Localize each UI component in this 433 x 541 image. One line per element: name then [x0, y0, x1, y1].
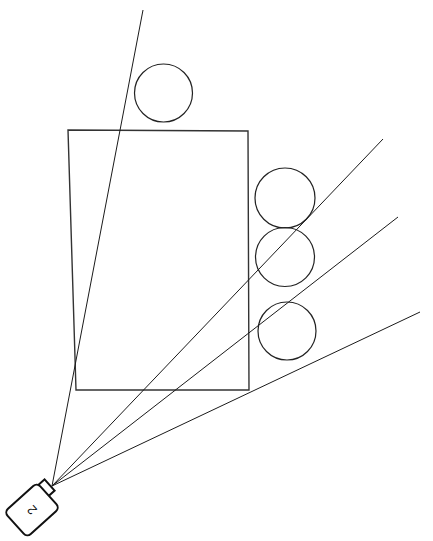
sensor-ray-1: [52, 10, 143, 486]
scene-svg: 2: [0, 0, 433, 541]
sensor-rays-group: [52, 10, 420, 486]
obstacle-circles-group: [135, 64, 317, 360]
obstacle-circle-right-2: [256, 228, 315, 287]
obstacle-circle-right-3: [258, 302, 316, 360]
sensor-ray-2: [52, 139, 383, 486]
sensor-ray-3: [52, 217, 398, 486]
diagram-canvas: 2: [0, 0, 433, 541]
sensor-ray-4: [52, 312, 420, 486]
obstacle-circle-top: [135, 64, 193, 122]
